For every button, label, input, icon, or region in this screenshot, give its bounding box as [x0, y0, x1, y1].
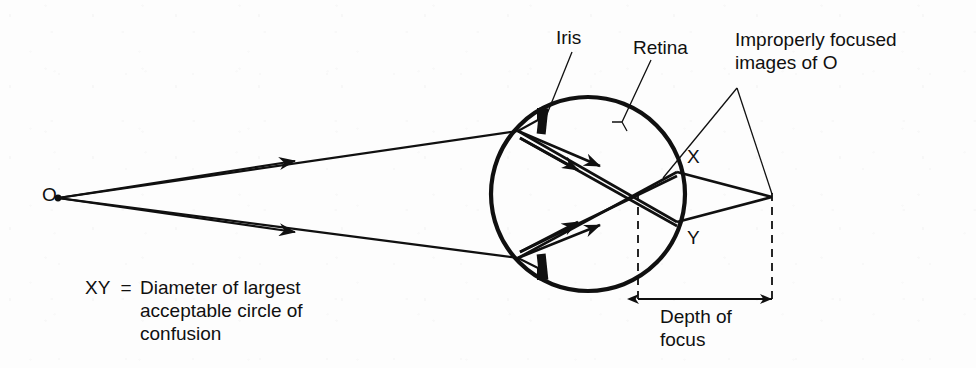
iris-leader-line	[543, 52, 572, 124]
object-point-label: O	[42, 183, 57, 206]
caption-symbol: XY =	[85, 276, 132, 299]
retina-point-y-label: Y	[687, 226, 700, 249]
eyeball-outline	[491, 97, 685, 291]
improperly-focused-images-label: Improperly focused images of O	[735, 28, 897, 74]
improper-leader-line-right	[737, 88, 772, 194]
depth-of-focus-label: Depth of focus	[660, 305, 732, 351]
retina-label: Retina	[633, 36, 688, 59]
retina-leader-line	[612, 60, 651, 131]
figure-canvas: Iris Retina Improperly focused images of…	[0, 0, 976, 368]
iris-label: Iris	[556, 26, 581, 49]
incident-ray-upper	[58, 131, 518, 198]
improper-leader-line-left	[663, 88, 737, 178]
caption-definition: Diameter of largest acceptable circle of…	[140, 276, 303, 346]
refracted-ray-bottom-to-x	[518, 172, 772, 258]
retina-point-x-label: X	[687, 145, 700, 168]
incident-ray-lower	[58, 198, 518, 258]
